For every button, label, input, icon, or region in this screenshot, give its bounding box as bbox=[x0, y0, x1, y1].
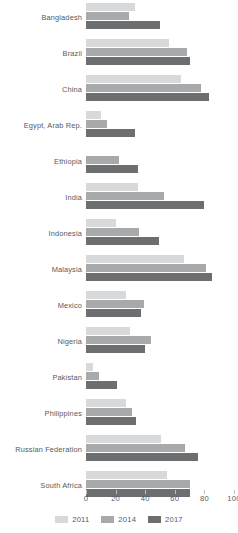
bar-2014 bbox=[86, 264, 206, 272]
bar-group: Bangladesh bbox=[0, 0, 238, 36]
category-label: Nigeria bbox=[4, 324, 82, 360]
bar-set bbox=[86, 111, 234, 141]
category-label: Philippines bbox=[4, 396, 82, 432]
bar-set bbox=[86, 363, 234, 393]
bar-2011 bbox=[86, 219, 116, 227]
legend-label: 2017 bbox=[165, 515, 183, 524]
bar-2017 bbox=[86, 417, 136, 425]
bar-2011 bbox=[86, 75, 181, 83]
bar-2011 bbox=[86, 435, 161, 443]
x-tick-label: 80 bbox=[200, 494, 209, 503]
bar-2014 bbox=[86, 480, 190, 488]
bar-2017 bbox=[86, 57, 190, 65]
x-tick-label: 40 bbox=[141, 494, 150, 503]
x-tick-label: 20 bbox=[111, 494, 120, 503]
bar-2014 bbox=[86, 300, 144, 308]
legend-swatch-icon bbox=[101, 516, 114, 523]
bar-group: Nigeria bbox=[0, 324, 238, 360]
bar-2011 bbox=[86, 363, 93, 371]
bar-set bbox=[86, 3, 234, 33]
x-tick-label: 100 bbox=[227, 494, 238, 503]
bar-2011 bbox=[86, 471, 167, 479]
bar-group: Ethiopia bbox=[0, 144, 238, 180]
legend-label: 2014 bbox=[118, 515, 136, 524]
bar-2014 bbox=[86, 192, 164, 200]
bar-2017 bbox=[86, 381, 117, 389]
bar-2014 bbox=[86, 12, 129, 20]
bar-2014 bbox=[86, 408, 132, 416]
bar-2014 bbox=[86, 444, 185, 452]
bar-group: India bbox=[0, 180, 238, 216]
bar-set bbox=[86, 291, 234, 321]
bar-2011 bbox=[86, 111, 101, 119]
category-label: China bbox=[4, 72, 82, 108]
bar-2014 bbox=[86, 372, 99, 380]
category-label: Brazil bbox=[4, 36, 82, 72]
bar-2014 bbox=[86, 120, 107, 128]
bar-2017 bbox=[86, 129, 135, 137]
bar-2017 bbox=[86, 273, 212, 281]
chart-legend: 201120142017 bbox=[0, 512, 238, 526]
category-label: Egypt, Arab Rep. bbox=[4, 108, 82, 144]
bar-2011 bbox=[86, 183, 138, 191]
bar-2014 bbox=[86, 48, 187, 56]
bar-2017 bbox=[86, 165, 138, 173]
bar-group: Egypt, Arab Rep. bbox=[0, 108, 238, 144]
bar-2011 bbox=[86, 255, 184, 263]
legend-item-2014[interactable]: 2014 bbox=[101, 515, 136, 524]
bar-2011 bbox=[86, 327, 130, 335]
bar-2014 bbox=[86, 84, 201, 92]
bar-2011 bbox=[86, 291, 126, 299]
legend-swatch-icon bbox=[148, 516, 161, 523]
bar-2017 bbox=[86, 345, 145, 353]
bar-group: Pakistan bbox=[0, 360, 238, 396]
bar-2017 bbox=[86, 309, 141, 317]
bar-set bbox=[86, 435, 234, 465]
legend-label: 2011 bbox=[72, 515, 89, 524]
bar-set bbox=[86, 399, 234, 429]
bar-set bbox=[86, 219, 234, 249]
bar-group: Brazil bbox=[0, 36, 238, 72]
bar-2017 bbox=[86, 21, 160, 29]
bar-2017 bbox=[86, 237, 159, 245]
category-label: Indonesia bbox=[4, 216, 82, 252]
bar-2017 bbox=[86, 201, 204, 209]
bar-set bbox=[86, 327, 234, 357]
legend-item-2017[interactable]: 2017 bbox=[148, 515, 183, 524]
legend-item-2011[interactable]: 2011 bbox=[55, 515, 89, 524]
bar-set bbox=[86, 255, 234, 285]
bar-group: Philippines bbox=[0, 396, 238, 432]
bar-group: Mexico bbox=[0, 288, 238, 324]
bar-2014 bbox=[86, 228, 139, 236]
bar-2011 bbox=[86, 399, 126, 407]
x-tick-label: 0 bbox=[84, 494, 88, 503]
category-label: Ethiopia bbox=[4, 144, 82, 180]
plot-area: BangladeshBrazilChinaEgypt, Arab Rep.Eth… bbox=[0, 0, 238, 497]
bar-2017 bbox=[86, 453, 198, 461]
bar-2011 bbox=[86, 3, 135, 11]
grouped-bar-chart: BangladeshBrazilChinaEgypt, Arab Rep.Eth… bbox=[0, 0, 238, 533]
category-label: Mexico bbox=[4, 288, 82, 324]
bar-group: Indonesia bbox=[0, 216, 238, 252]
category-label: India bbox=[4, 180, 82, 216]
bar-set bbox=[86, 183, 234, 213]
bar-2011 bbox=[86, 39, 169, 47]
category-label: Malaysia bbox=[4, 252, 82, 288]
legend-swatch-icon bbox=[55, 516, 68, 523]
bar-group: Malaysia bbox=[0, 252, 238, 288]
bar-set bbox=[86, 75, 234, 105]
bar-set bbox=[86, 39, 234, 69]
x-axis-tick-labels: 020406080100 bbox=[0, 494, 238, 508]
bar-2014 bbox=[86, 156, 119, 164]
x-tick-label: 60 bbox=[170, 494, 179, 503]
bar-set bbox=[86, 147, 234, 177]
category-label: Bangladesh bbox=[4, 0, 82, 36]
category-label: Russian Federation bbox=[4, 432, 82, 468]
bar-group: China bbox=[0, 72, 238, 108]
bar-2017 bbox=[86, 93, 209, 101]
bar-group: Russian Federation bbox=[0, 432, 238, 468]
bar-2014 bbox=[86, 336, 151, 344]
category-label: Pakistan bbox=[4, 360, 82, 396]
